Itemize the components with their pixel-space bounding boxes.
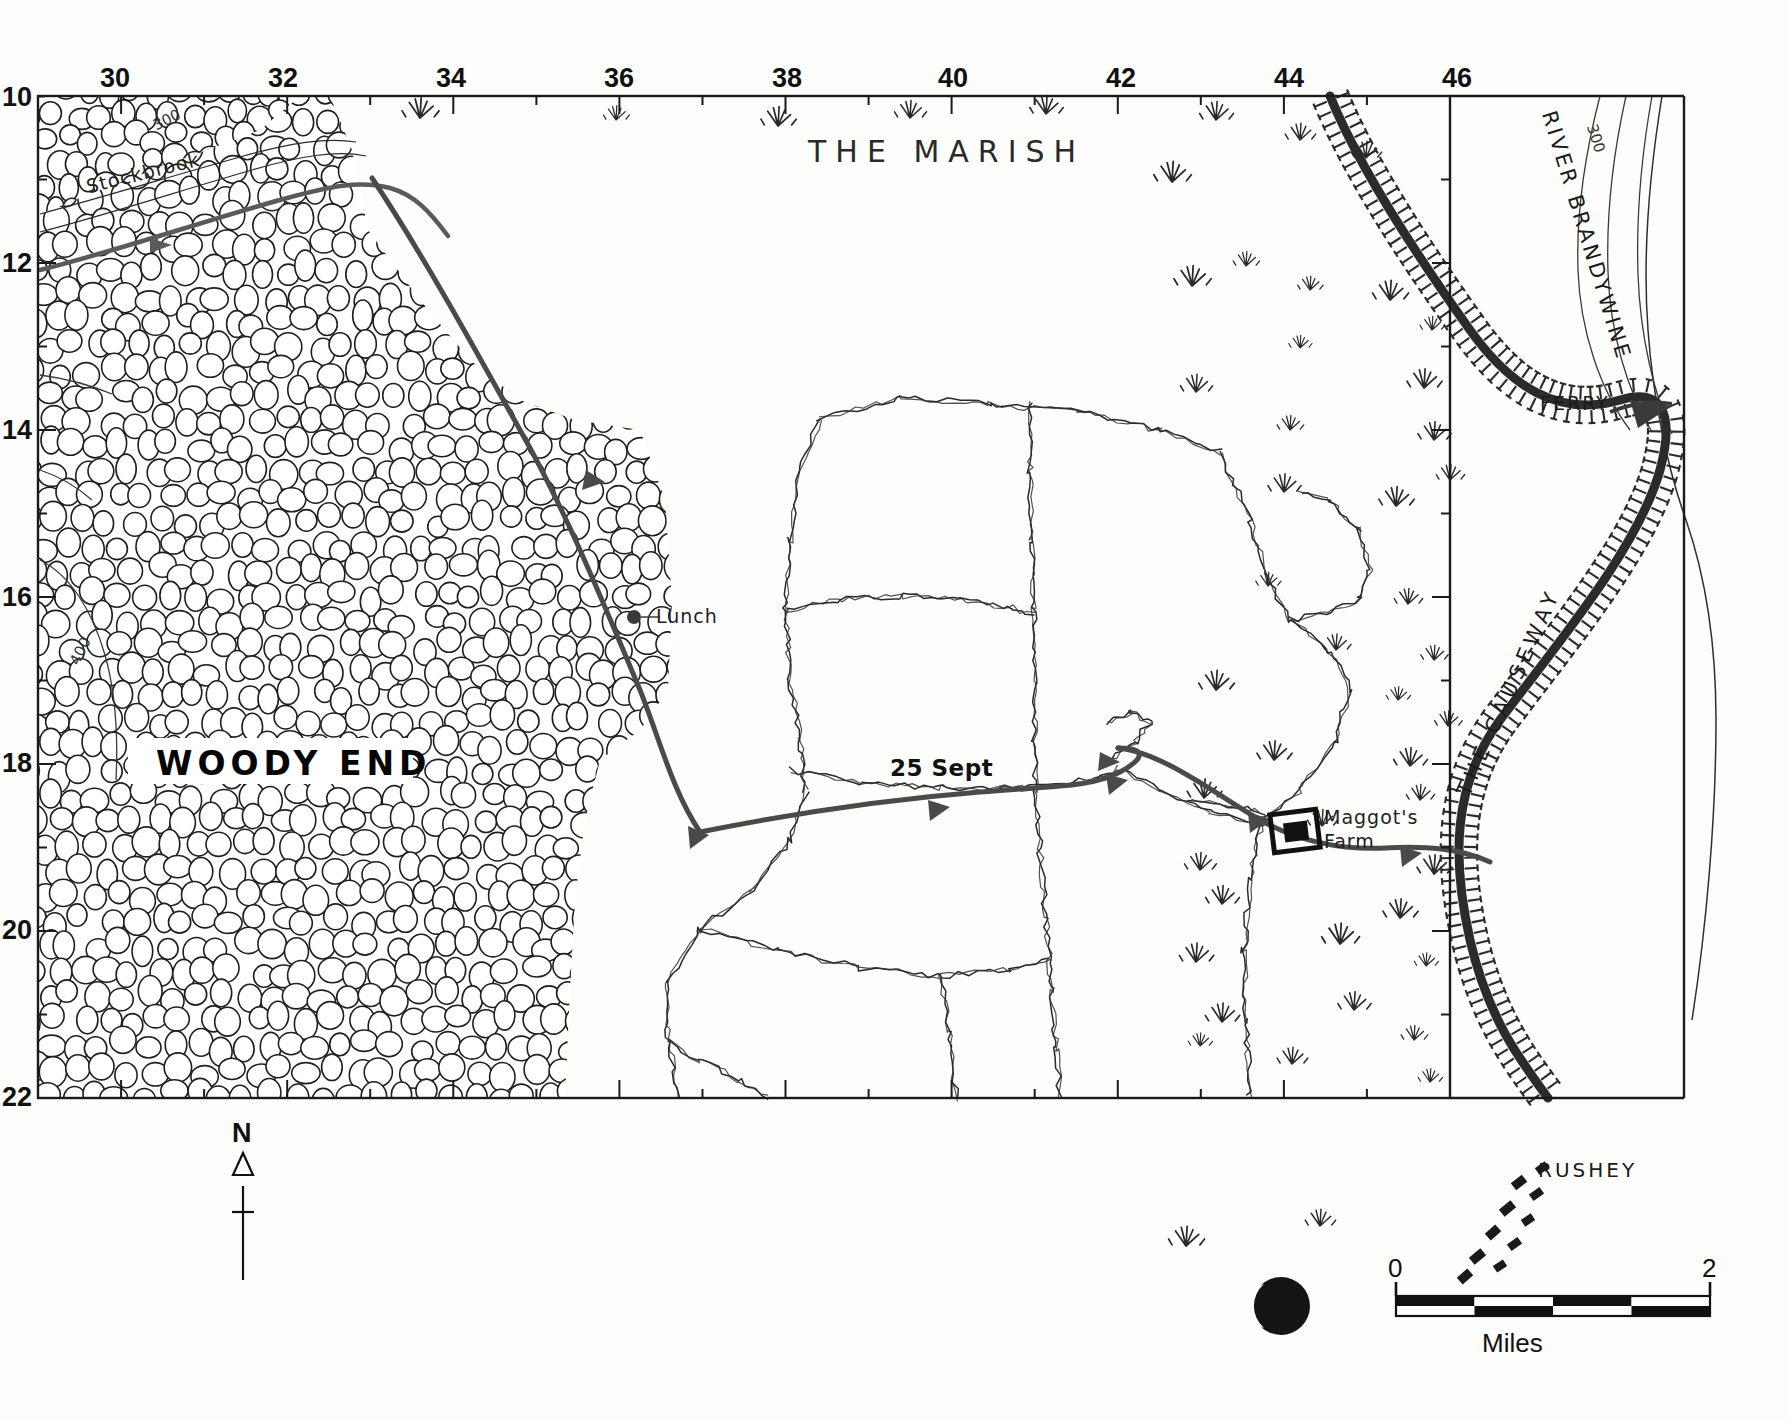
moon-phase-symbol <box>1248 1277 1310 1335</box>
map-drawing <box>0 0 1789 1421</box>
map-canvas: 30 32 34 36 38 40 42 44 46 10 12 14 16 1… <box>0 0 1789 1421</box>
woodland-woody-end <box>2 76 716 1114</box>
scale-bar <box>1396 1282 1710 1316</box>
rushey-buildings <box>1457 1161 1549 1284</box>
the-causeway <box>1313 90 1684 1106</box>
woody-end-label-backdrop <box>128 738 413 784</box>
lunch-stop-marker <box>627 610 641 624</box>
route-arrowheads <box>582 470 1422 867</box>
north-arrow-symbol <box>232 1153 254 1280</box>
river-brandywine-banks <box>1646 96 1716 1020</box>
